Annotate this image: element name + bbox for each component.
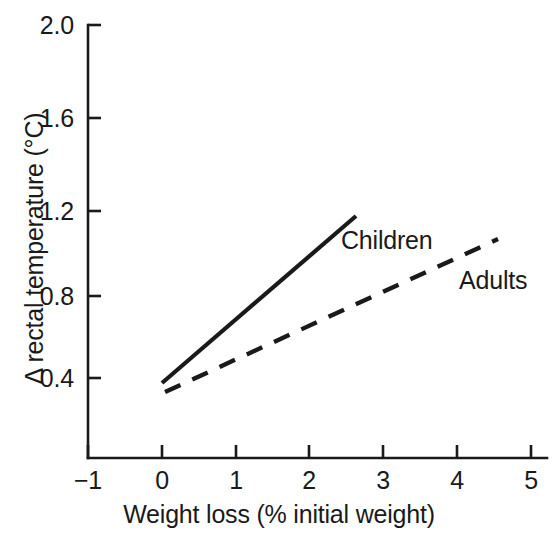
x-axis-ticks: [88, 445, 531, 458]
series-line-adults: [165, 239, 498, 392]
series-line-children: [162, 216, 356, 383]
x-tick-label-3: 3: [376, 466, 390, 495]
x-axis-title: Weight loss (% initial weight): [0, 500, 558, 529]
x-tick-label-4: 4: [450, 466, 464, 495]
x-tick-label-5: 5: [524, 466, 538, 495]
series-label-children: Children: [341, 226, 433, 255]
x-tick-label-1: 1: [229, 466, 243, 495]
y-axis-title: Δ rectal temperature (°C): [20, 113, 48, 385]
y-axis-ticks: [88, 25, 101, 378]
x-tick-label-minus-1: −1: [74, 466, 102, 495]
y-axis-title-wrapper: Δ rectal temperature (°C): [20, 19, 49, 479]
x-tick-label-2: 2: [302, 466, 316, 495]
x-tick-label-0: 0: [155, 466, 169, 495]
chart-figure: 2.0 1.6 1.2 0.8 0.4 −1 0 1 2 3 4 5 Weigh…: [0, 0, 558, 545]
series-label-adults: Adults: [459, 266, 527, 295]
